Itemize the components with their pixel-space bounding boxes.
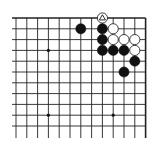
black-stone[interactable] bbox=[97, 35, 107, 45]
white-stone[interactable] bbox=[119, 35, 129, 45]
star-point bbox=[47, 49, 50, 52]
white-stone[interactable] bbox=[130, 45, 140, 55]
white-stone[interactable] bbox=[108, 35, 118, 45]
white-stone[interactable] bbox=[97, 13, 107, 23]
black-stone[interactable] bbox=[119, 45, 129, 55]
black-stone[interactable] bbox=[119, 67, 129, 77]
black-stone[interactable] bbox=[97, 24, 107, 34]
star-point bbox=[47, 114, 50, 117]
black-stone[interactable] bbox=[97, 45, 107, 55]
white-stone[interactable] bbox=[130, 35, 140, 45]
stones-layer bbox=[76, 13, 140, 77]
black-stone[interactable] bbox=[108, 45, 118, 55]
star-point bbox=[112, 114, 115, 117]
black-stone[interactable] bbox=[130, 56, 140, 66]
go-board[interactable] bbox=[0, 0, 158, 148]
black-stone[interactable] bbox=[76, 24, 86, 34]
white-stone[interactable] bbox=[108, 24, 118, 34]
